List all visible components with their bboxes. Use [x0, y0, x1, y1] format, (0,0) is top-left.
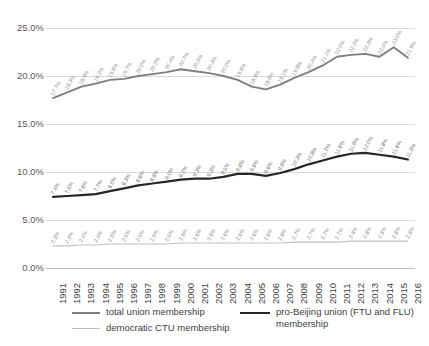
legend-swatch: [72, 328, 100, 329]
chart-container: 25.0%20.0%15.0%10.0%5.0%0.0% 17.7%18.3%1…: [0, 0, 429, 346]
y-axis-tick-label: 0.0%: [0, 263, 44, 273]
legend-swatch: [72, 312, 100, 314]
legend-label: democratic CTU membership: [106, 322, 230, 334]
legend-label: pro-Beijing union (FTU and FLU) membersh…: [276, 306, 414, 330]
y-axis-tick-label: 25.0%: [0, 23, 44, 33]
y-axis-tick-label: 15.0%: [0, 119, 44, 129]
series-line: [53, 153, 408, 197]
y-axis-tick-label: 5.0%: [0, 215, 44, 225]
y-axis-tick-label: 20.0%: [0, 71, 44, 81]
x-axis-line: [46, 268, 415, 269]
chart-legend: total union membershipdemocratic CTU mem…: [0, 306, 429, 346]
y-axis-tick-labels: 25.0%20.0%15.0%10.0%5.0%0.0%: [0, 28, 44, 268]
legend-swatch: [240, 312, 270, 314]
y-axis-tick-label: 10.0%: [0, 167, 44, 177]
plot-area: 17.7%18.3%18.9%19.2%19.6%19.7%20.0%20.2%…: [46, 28, 415, 268]
series-line: [53, 47, 408, 98]
legend-label: total union membership: [106, 306, 205, 318]
series-line: [53, 241, 408, 246]
x-axis-tick-label: 2016: [412, 270, 429, 304]
x-axis-tick-labels: 1991199219931994199519961997199819992000…: [46, 270, 415, 308]
